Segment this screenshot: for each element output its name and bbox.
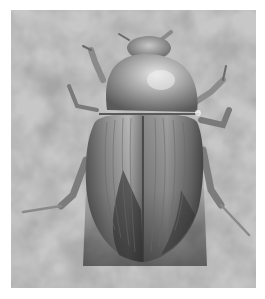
- beetle-photo: [11, 10, 256, 288]
